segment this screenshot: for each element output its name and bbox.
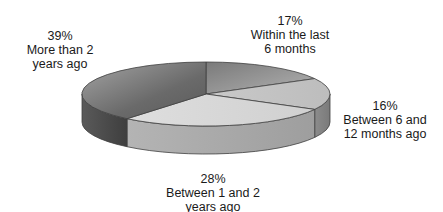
label-39-line2: years ago	[12, 57, 108, 71]
label-16-line2: 12 months ago	[333, 127, 437, 141]
label-16-pct: 16%	[333, 99, 437, 113]
label-28: 28% Between 1 and 2 years ago	[160, 172, 266, 212]
label-39-line1: More than 2	[12, 43, 108, 57]
label-28-pct: 28%	[160, 172, 266, 186]
label-39-pct: 39%	[12, 29, 108, 43]
label-17: 17% Within the last 6 months	[240, 14, 340, 56]
label-16: 16% Between 6 and 12 months ago	[333, 99, 437, 141]
label-16-line1: Between 6 and	[333, 113, 437, 127]
label-17-pct: 17%	[240, 14, 340, 28]
label-39: 39% More than 2 years ago	[12, 29, 108, 71]
label-28-line2: years ago	[160, 200, 266, 212]
label-28-line1: Between 1 and 2	[160, 186, 266, 200]
label-17-line1: Within the last	[240, 28, 340, 42]
label-17-line2: 6 months	[240, 42, 340, 56]
